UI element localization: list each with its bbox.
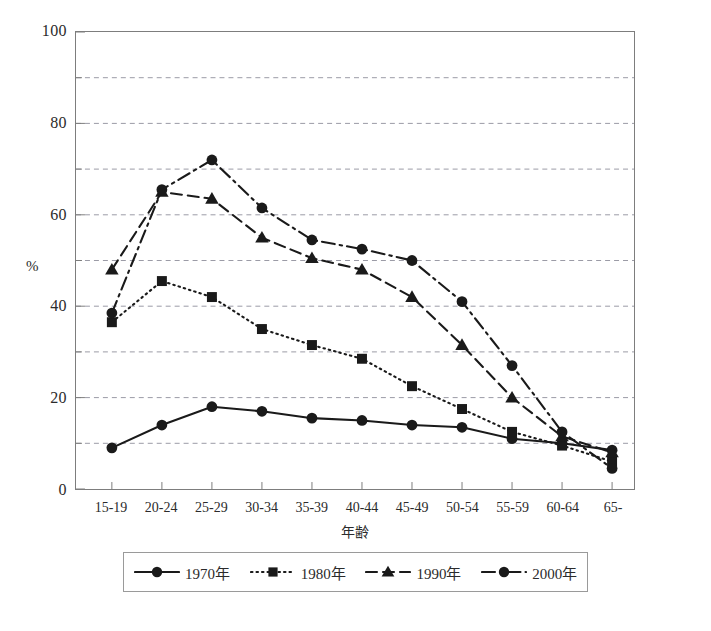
data-point <box>207 155 218 166</box>
data-point <box>357 244 368 255</box>
x-tick-label: 30-34 <box>245 500 278 516</box>
chart-legend: 1970年1980年1990年2000年 <box>123 552 588 592</box>
legend-swatch-icon <box>134 564 180 580</box>
y-tick-label: 60 <box>21 206 67 224</box>
data-series-layer <box>76 32 634 489</box>
legend-swatch-icon <box>250 564 296 580</box>
data-point <box>405 290 418 302</box>
series-line-1980年 <box>112 281 612 462</box>
data-point <box>357 354 367 364</box>
data-point <box>407 255 418 266</box>
y-tick-label: 100 <box>21 22 67 40</box>
legend-label: 1970年 <box>185 562 230 583</box>
legend-label: 1980年 <box>301 562 346 583</box>
legend-swatch-icon <box>365 564 411 580</box>
legend-swatch-icon <box>481 564 527 580</box>
legend-label: 1990年 <box>416 562 461 583</box>
data-point <box>257 203 268 214</box>
data-point <box>106 308 117 319</box>
legend-item-1980年: 1980年 <box>250 562 346 583</box>
x-tick-label: 20-24 <box>145 500 178 516</box>
x-tick-label: 40-44 <box>346 500 379 516</box>
data-point <box>407 381 417 391</box>
data-point <box>457 422 468 433</box>
data-point <box>307 340 317 350</box>
series-line-1970年 <box>112 407 612 450</box>
plot-area <box>75 31 635 490</box>
data-point <box>505 391 518 403</box>
data-point <box>157 420 168 431</box>
data-point <box>257 406 268 417</box>
y-tick-label: 20 <box>21 389 67 407</box>
data-point <box>105 263 118 275</box>
y-tick-label: 80 <box>21 114 67 132</box>
data-point <box>557 426 568 437</box>
data-point <box>507 427 517 437</box>
legend-item-1990年: 1990年 <box>365 562 461 583</box>
data-point <box>106 442 117 453</box>
data-point <box>557 441 567 451</box>
x-tick-label: 50-54 <box>446 500 479 516</box>
data-point <box>457 296 468 307</box>
data-point <box>257 324 267 334</box>
data-point <box>307 235 318 246</box>
data-point <box>357 415 368 426</box>
legend-item-2000年: 2000年 <box>481 562 577 583</box>
x-tick-label: 45-49 <box>396 500 429 516</box>
chart-page: % 020406080100 15-1920-2425-2930-3435-39… <box>0 0 711 631</box>
data-point <box>107 317 117 327</box>
x-tick-label: 65- <box>604 500 623 516</box>
x-tick-label: 60-64 <box>546 500 579 516</box>
y-tick-label: 0 <box>21 481 67 499</box>
x-tick-label: 25-29 <box>195 500 228 516</box>
series-line-1990年 <box>112 192 612 452</box>
data-point <box>407 420 418 431</box>
data-point <box>157 184 168 195</box>
legend-item-1970年: 1970年 <box>134 562 230 583</box>
x-axis-title: 年齢 <box>341 521 369 541</box>
data-point <box>255 231 268 243</box>
y-axis-title: % <box>26 258 39 275</box>
data-point <box>457 404 467 414</box>
x-tick-label: 35-39 <box>295 500 328 516</box>
data-point <box>157 276 167 286</box>
data-point <box>607 463 618 474</box>
x-tick-label: 55-59 <box>496 500 529 516</box>
data-point <box>507 360 518 371</box>
data-point <box>307 413 318 424</box>
x-tick-label: 15-19 <box>95 500 128 516</box>
data-point <box>207 401 218 412</box>
legend-label: 2000年 <box>532 562 577 583</box>
data-point <box>207 292 217 302</box>
y-tick-label: 40 <box>21 297 67 315</box>
